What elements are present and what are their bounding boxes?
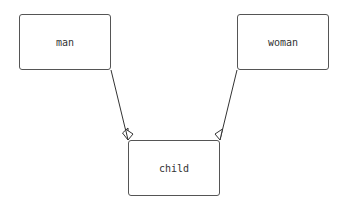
node-label: woman (268, 37, 298, 48)
node-child[interactable]: child (128, 140, 220, 196)
diagram-canvas: man woman child (0, 0, 345, 210)
node-man[interactable]: man (19, 14, 111, 70)
node-label: man (56, 37, 74, 48)
node-label: child (159, 163, 189, 174)
node-woman[interactable]: woman (237, 14, 329, 70)
inheritance-arrow-icon (215, 129, 223, 140)
